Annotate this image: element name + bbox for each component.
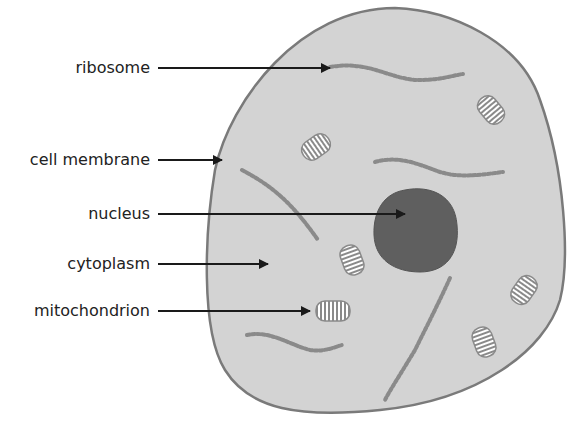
- label-nucleus: nucleus: [0, 204, 150, 223]
- label-cell-membrane: cell membrane: [0, 150, 150, 169]
- label-ribosome: ribosome: [0, 58, 150, 77]
- nucleus: [374, 189, 457, 272]
- label-mitochondrion: mitochondrion: [0, 301, 150, 320]
- label-cytoplasm: cytoplasm: [0, 254, 150, 273]
